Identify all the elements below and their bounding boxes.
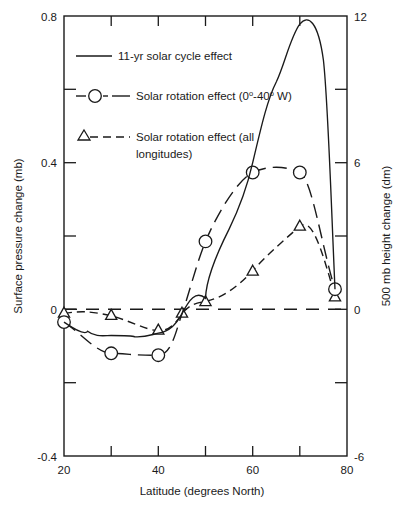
legend-label-all-longitudes-line1: Solar rotation effect (all — [136, 131, 254, 143]
figure-container: 20 40 60 80 0.8 0.4 0 -0.4 12 6 0 -6 Lat… — [0, 0, 404, 511]
y-axis-right-tick-labels: 12 6 0 -6 — [354, 11, 367, 463]
legend-label-all-longitudes-line2: longitudes) — [136, 148, 192, 160]
x-tick-label-80: 80 — [341, 464, 354, 476]
y-right-tick-label-0: 0 — [354, 304, 360, 316]
y-axis-right-title: 500 mb height change (dm) — [380, 166, 392, 307]
y-axis-left-tick-labels: 0.8 0.4 0 -0.4 — [37, 11, 57, 463]
y-axis-left-title: Surface pressure change (mb) — [12, 158, 24, 313]
solar-effect-line-chart: 20 40 60 80 0.8 0.4 0 -0.4 12 6 0 -6 Lat… — [0, 0, 404, 511]
legend-label-solar-rotation-0-40w: Solar rotation effect (0o-40o W) — [136, 89, 292, 102]
x-tick-label-20: 20 — [58, 464, 71, 476]
legend-circle-marker-icon — [89, 90, 102, 103]
x-tick-label-60: 60 — [246, 464, 259, 476]
y-right-tick-label-6: 6 — [354, 157, 360, 169]
x-axis-title: Latitude (degrees North) — [140, 485, 265, 497]
x-axis-tick-labels: 20 40 60 80 — [58, 464, 354, 476]
y-left-tick-label-04: 0.4 — [41, 157, 58, 169]
x-tick-label-40: 40 — [152, 464, 165, 476]
y-left-tick-label-08: 0.8 — [41, 11, 57, 23]
y-right-tick-label-12: 12 — [354, 11, 367, 23]
y-left-tick-label-0: 0 — [51, 304, 57, 316]
y-right-tick-label-neg6: -6 — [354, 451, 364, 463]
legend-label-solar-cycle: 11-yr solar cycle effect — [118, 50, 233, 62]
y-left-tick-label-neg04: -0.4 — [37, 451, 57, 463]
